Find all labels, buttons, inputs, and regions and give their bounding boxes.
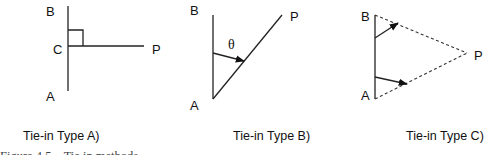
point-label-p: P xyxy=(290,9,299,24)
angle-arrow xyxy=(213,53,244,61)
point-label-a: A xyxy=(46,89,55,104)
point-label-a: A xyxy=(361,88,370,103)
arrow-to-bp xyxy=(375,23,398,38)
point-label-b: B xyxy=(190,3,199,18)
figure-caption: Figure 4.5 Tie in methods xyxy=(0,149,138,155)
panel-type-c: B P A Tie-in Type C) xyxy=(361,9,484,143)
point-label-a: A xyxy=(190,98,199,113)
panel-title-a: Tie-in Type A) xyxy=(23,129,99,143)
dashed-line-ap xyxy=(375,53,467,99)
panel-title-b: Tie-in Type B) xyxy=(233,129,310,143)
panel-type-a: B C P A Tie-in Type A) xyxy=(23,4,161,143)
dashed-line-bp xyxy=(375,15,467,53)
point-label-c: C xyxy=(53,42,62,57)
tie-in-methods-figure: B C P A Tie-in Type A) θ B P A Tie-in Ty… xyxy=(0,0,488,155)
theta-symbol: θ xyxy=(228,37,235,52)
point-label-p: P xyxy=(474,48,483,63)
panel-title-c: Tie-in Type C) xyxy=(406,129,484,143)
panel-type-b: θ B P A Tie-in Type B) xyxy=(190,3,310,143)
point-label-b: B xyxy=(46,4,55,19)
point-label-p: P xyxy=(152,42,161,57)
line-ap xyxy=(213,15,282,99)
right-angle-marker xyxy=(68,30,83,46)
point-label-b: B xyxy=(361,9,370,24)
arrow-to-ap xyxy=(375,77,407,84)
